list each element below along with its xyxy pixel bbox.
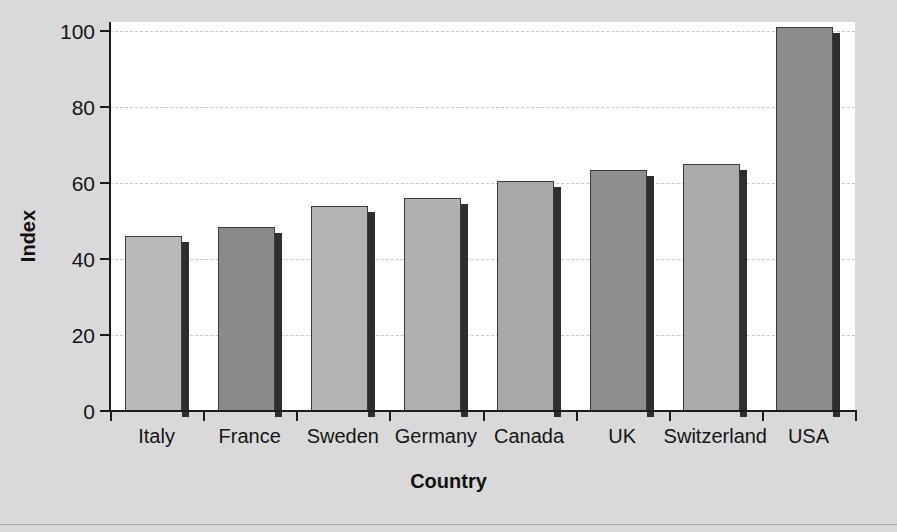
- x-axis-tick-label: Canada: [494, 426, 564, 446]
- bar-shadow: [833, 33, 840, 417]
- x-axis-tick: [669, 411, 671, 421]
- y-axis-tick-label: 100: [60, 21, 95, 42]
- x-axis-tick: [855, 411, 857, 421]
- page-rule: [0, 524, 897, 525]
- x-axis-tick: [389, 411, 391, 421]
- bar-shadow: [461, 204, 468, 417]
- x-axis-tick: [110, 411, 112, 421]
- x-axis-tick: [576, 411, 578, 421]
- y-axis-line: [109, 22, 111, 412]
- bar: [776, 27, 833, 412]
- x-axis-tick-label: UK: [608, 426, 636, 446]
- chart-figure: 020406080100 ItalyFranceSwedenGermanyCan…: [0, 0, 897, 532]
- bar-shadow: [554, 187, 561, 417]
- x-axis-tick-label: Sweden: [307, 426, 379, 446]
- x-axis-tick-label: Switzerland: [664, 426, 767, 446]
- y-axis-title: Index: [17, 210, 40, 262]
- bar-shadow: [647, 176, 654, 417]
- y-axis-tick-label: 60: [72, 173, 95, 194]
- y-axis-tick: [100, 106, 109, 108]
- bar-shadow: [368, 212, 375, 417]
- x-axis-title: Country: [0, 470, 897, 493]
- plot-area: [110, 22, 855, 411]
- x-axis-tick: [762, 411, 764, 421]
- bar: [125, 236, 182, 412]
- x-axis-tick-label: Germany: [395, 426, 477, 446]
- bar-shadow: [740, 170, 747, 417]
- bar: [404, 198, 461, 412]
- bar: [497, 181, 554, 412]
- bar: [590, 170, 647, 412]
- gridline: [110, 107, 855, 108]
- x-axis-tick-label: Italy: [138, 426, 175, 446]
- x-axis-tick-label: USA: [788, 426, 829, 446]
- y-axis-tick-label: 20: [72, 325, 95, 346]
- bar-shadow: [275, 233, 282, 417]
- y-axis-tick: [100, 30, 109, 32]
- gridline: [110, 31, 855, 32]
- x-axis-tick-label: France: [219, 426, 281, 446]
- x-axis-tick: [296, 411, 298, 421]
- x-axis-tick: [483, 411, 485, 421]
- bar: [311, 206, 368, 412]
- y-axis-tick-label: 40: [72, 249, 95, 270]
- y-axis-tick: [100, 334, 109, 336]
- y-axis-tick-label: 80: [72, 97, 95, 118]
- bar-shadow: [182, 242, 189, 417]
- bar: [683, 164, 740, 412]
- y-axis-tick: [100, 410, 109, 412]
- y-axis-tick: [100, 182, 109, 184]
- y-axis-tick: [100, 258, 109, 260]
- y-axis-tick-label: 0: [83, 401, 95, 422]
- y-axis-ticks: 020406080100: [0, 0, 109, 532]
- bar: [218, 227, 275, 412]
- x-axis-tick: [203, 411, 205, 421]
